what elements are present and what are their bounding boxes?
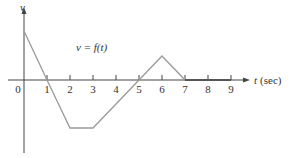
tick-label: 6: [159, 83, 165, 95]
x-axis-arrow-icon: [243, 78, 250, 83]
tick-label: 8: [205, 83, 211, 95]
equation-label: v = f(t): [76, 41, 108, 54]
velocity-graph: v t(sec) 0 1 2 3 4 5 6 7 8 9: [0, 0, 290, 158]
tick-label: 3: [90, 83, 96, 95]
tick-label: 2: [67, 83, 73, 95]
x-tick-labels: 0 1 2 3 4 5 6 7 8 9: [15, 83, 234, 95]
x-axis-label: t(sec): [254, 74, 282, 87]
y-axis-label: v: [20, 1, 25, 13]
tick-label: 9: [228, 83, 234, 95]
tick-label: 4: [113, 83, 119, 95]
tick-label: 7: [182, 83, 188, 95]
tick-label: 0: [15, 83, 21, 95]
tick-label: 5: [136, 83, 142, 95]
graph-canvas: v t(sec) 0 1 2 3 4 5 6 7 8 9: [0, 0, 290, 158]
